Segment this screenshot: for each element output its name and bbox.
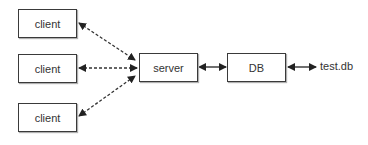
- server-label: server: [153, 62, 184, 74]
- server-node: server: [139, 53, 198, 82]
- client-node-1: client: [18, 9, 77, 38]
- edge-client3-server: [79, 76, 135, 116]
- client-node-2: client: [18, 54, 77, 83]
- client-label: client: [35, 63, 61, 75]
- db-node: DB: [227, 53, 286, 82]
- file-label: test.db: [320, 60, 353, 72]
- db-label: DB: [249, 62, 264, 74]
- client-label: client: [35, 112, 61, 124]
- edge-client1-server: [79, 23, 135, 60]
- client-node-3: client: [18, 103, 77, 132]
- client-label: client: [35, 18, 61, 30]
